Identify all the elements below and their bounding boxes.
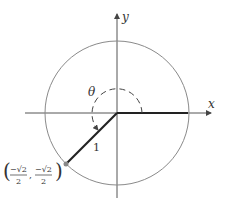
unit-circle-diagram: y x θ 1 ( −√2 2 , −√2 2 ): [0, 0, 226, 205]
terminal-side: [66, 113, 117, 164]
svg-text:−√2: −√2: [35, 165, 52, 174]
point-marker: [64, 162, 69, 167]
angle-label: θ: [88, 85, 96, 99]
x-axis-label: x: [208, 97, 215, 111]
y-axis-label: y: [121, 10, 129, 24]
radius-label: 1: [93, 141, 100, 154]
svg-text:−√2: −√2: [10, 165, 27, 174]
svg-text:2: 2: [16, 177, 21, 186]
svg-text:): ): [55, 159, 63, 183]
svg-text:2: 2: [41, 177, 46, 186]
svg-text:,: ,: [29, 170, 32, 180]
point-label: ( −√2 2 , −√2 2 ): [3, 159, 63, 186]
